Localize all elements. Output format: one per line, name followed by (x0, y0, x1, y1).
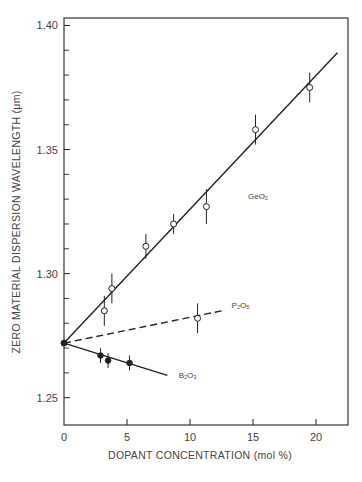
x-tick-label: 0 (61, 431, 67, 443)
y-tick-label: 1.25 (37, 392, 58, 404)
y-tick-label: 1.35 (37, 144, 58, 156)
data-point-bo (127, 360, 133, 366)
fit-line-geo (64, 53, 337, 343)
x-tick-label: 20 (310, 431, 322, 443)
x-tick-label: 5 (124, 431, 130, 443)
origin-point (61, 340, 67, 346)
data-point-geo (307, 84, 313, 90)
data-point-geo (253, 127, 259, 133)
y-tick-label: 1.30 (37, 268, 58, 280)
y-axis-title: ZERO MATERIAL DISPERSION WAVELENGTH (μm) (10, 90, 22, 353)
data-points (61, 73, 313, 371)
y-tick-label: 1.40 (37, 19, 58, 31)
data-point-geo (101, 308, 107, 314)
data-point-bo (105, 358, 111, 364)
chart-figure: 1.251.301.351.40 05101520 GeO₂P₂O₅B₂O₃ D… (0, 0, 362, 482)
series-labels: GeO₂P₂O₅B₂O₃ (179, 192, 268, 380)
series-label-geo: GeO₂ (248, 192, 268, 201)
data-point-geo (203, 204, 209, 210)
data-point-geo (143, 243, 149, 249)
x-tick-label: 10 (184, 431, 196, 443)
series-label-po: P₂O₅ (232, 301, 250, 310)
fit-line-bo (64, 343, 167, 375)
series-label-bo: B₂O₃ (179, 371, 197, 380)
x-axis-title: DOPANT CONCENTRATION (mol %) (108, 449, 292, 461)
x-axis: 05101520 (61, 419, 322, 443)
data-point-geo (109, 286, 115, 292)
fit-lines (64, 53, 337, 376)
data-point-geo (171, 221, 177, 227)
data-point-po (195, 315, 201, 321)
data-point-bo (98, 353, 104, 359)
x-tick-label: 15 (247, 431, 259, 443)
